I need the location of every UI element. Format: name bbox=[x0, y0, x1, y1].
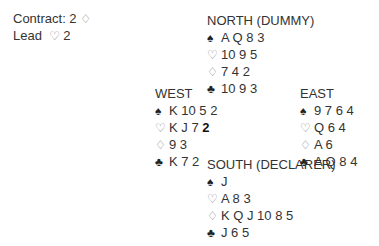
east-title: EAST bbox=[300, 85, 357, 102]
contract-label: Contract: 2 bbox=[13, 11, 77, 26]
south-clubs-cards: J 6 5 bbox=[221, 225, 249, 240]
north-title: NORTH (DUMMY) bbox=[207, 12, 314, 29]
diamond-icon: ♢ bbox=[155, 137, 169, 154]
lead-label: Lead bbox=[13, 28, 42, 43]
contract-info: Contract: 2 ♢ Lead ♡2 bbox=[13, 10, 94, 44]
east-spades-cards: 9 7 6 4 bbox=[314, 103, 354, 118]
lead-card: 2 bbox=[63, 28, 70, 43]
west-hearts: ♡K J 7 2 bbox=[155, 119, 217, 136]
east-spades: ♠9 7 6 4 bbox=[300, 102, 357, 119]
east-hearts: ♡Q 6 4 bbox=[300, 119, 357, 136]
south-hearts: ♡A 8 3 bbox=[207, 190, 336, 207]
spade-icon: ♠ bbox=[207, 30, 221, 47]
west-hearts-cards: K J 7 bbox=[169, 120, 199, 135]
south-spades: ♠J bbox=[207, 173, 336, 190]
west-spades-cards: K 10 5 2 bbox=[169, 103, 217, 118]
diamond-icon: ♢ bbox=[207, 208, 221, 225]
north-spades: ♠A Q 8 3 bbox=[207, 29, 314, 46]
heart-icon: ♡ bbox=[155, 120, 169, 137]
heart-icon: ♡ bbox=[49, 28, 63, 45]
lead-line: Lead ♡2 bbox=[13, 27, 94, 44]
north-hearts-cards: 10 9 5 bbox=[221, 47, 257, 62]
diamond-icon: ♢ bbox=[207, 64, 221, 81]
west-clubs-cards: K 7 2 bbox=[169, 154, 199, 169]
diamond-icon: ♢ bbox=[80, 11, 94, 28]
north-diamonds-cards: 7 4 2 bbox=[221, 64, 250, 79]
south-clubs: ♣J 6 5 bbox=[207, 224, 336, 241]
diamond-icon: ♢ bbox=[300, 137, 314, 154]
west-diamonds-cards: 9 3 bbox=[169, 137, 187, 152]
south-title: SOUTH (DECLARER) bbox=[207, 156, 336, 173]
west-led-card: 2 bbox=[202, 120, 209, 135]
west-title: WEST bbox=[155, 85, 217, 102]
spade-icon: ♠ bbox=[155, 103, 169, 120]
contract-line: Contract: 2 ♢ bbox=[13, 10, 94, 27]
north-clubs-cards: 10 9 3 bbox=[221, 81, 257, 96]
heart-icon: ♡ bbox=[207, 191, 221, 208]
east-diamonds: ♢A 6 bbox=[300, 136, 357, 153]
south-hand: SOUTH (DECLARER) ♠J ♡A 8 3 ♢K Q J 10 8 5… bbox=[207, 156, 336, 241]
south-hearts-cards: A 8 3 bbox=[221, 191, 251, 206]
south-diamonds: ♢K Q J 10 8 5 bbox=[207, 207, 336, 224]
west-diamonds: ♢9 3 bbox=[155, 136, 217, 153]
west-spades: ♠K 10 5 2 bbox=[155, 102, 217, 119]
north-hearts: ♡10 9 5 bbox=[207, 46, 314, 63]
north-hand: NORTH (DUMMY) ♠A Q 8 3 ♡10 9 5 ♢7 4 2 ♣1… bbox=[207, 12, 314, 97]
club-icon: ♣ bbox=[207, 225, 221, 242]
north-diamonds: ♢7 4 2 bbox=[207, 63, 314, 80]
east-hearts-cards: Q 6 4 bbox=[314, 120, 346, 135]
heart-icon: ♡ bbox=[207, 47, 221, 64]
north-spades-cards: A Q 8 3 bbox=[221, 30, 264, 45]
south-diamonds-cards: K Q J 10 8 5 bbox=[221, 208, 293, 223]
north-clubs: ♣10 9 3 bbox=[207, 80, 314, 97]
spade-icon: ♠ bbox=[300, 103, 314, 120]
heart-icon: ♡ bbox=[300, 120, 314, 137]
spade-icon: ♠ bbox=[207, 174, 221, 191]
south-spades-cards: J bbox=[221, 174, 228, 189]
east-diamonds-cards: A 6 bbox=[314, 137, 333, 152]
club-icon: ♣ bbox=[155, 154, 169, 171]
